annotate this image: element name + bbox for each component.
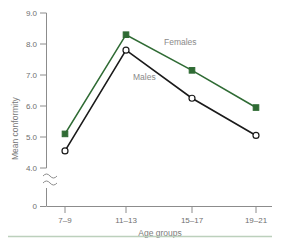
y-axis-tick-labels: 9.0 8.0 7.0 6.0 5.0 4.0 0: [26, 9, 38, 211]
line-chart: 9.0 8.0 7.0 6.0 5.0 4.0 0 Mean conformit…: [0, 0, 282, 245]
data-point: [62, 148, 68, 154]
x-axis-tick-labels: 7–9 11–13 15–17 19–21: [58, 216, 267, 225]
y-tick-label-0: 0: [33, 202, 38, 211]
axis-break-symbol: [43, 174, 57, 185]
y-tick-label-8: 8.0: [26, 40, 38, 49]
x-tick-label-3: 19–21: [245, 216, 268, 225]
x-tick-label-1: 11–13: [115, 216, 137, 225]
y-tick-label-5: 5.0: [26, 133, 38, 142]
chart-container: 9.0 8.0 7.0 6.0 5.0 4.0 0 Mean conformit…: [0, 0, 282, 245]
y-tick-label-7: 7.0: [26, 71, 38, 80]
data-point: [123, 47, 129, 53]
x-tick-label-0: 7–9: [58, 216, 72, 225]
series-markers-males: [62, 47, 259, 154]
data-point: [123, 32, 129, 38]
y-tick-label-9: 9.0: [26, 9, 38, 18]
y-axis-ticks: [40, 13, 47, 207]
y-tick-label-6: 6.0: [26, 102, 38, 111]
series-annotation-females: Females: [164, 37, 197, 47]
data-point: [253, 105, 259, 111]
series-annotation-males: Males: [133, 72, 156, 82]
series-markers-females: [62, 32, 259, 137]
x-tick-label-2: 15–17: [181, 216, 204, 225]
y-axis-title: Mean conformity: [10, 96, 20, 160]
y-tick-label-4: 4.0: [26, 164, 38, 173]
x-axis-ticks: [65, 207, 256, 214]
data-point: [253, 132, 259, 138]
data-point: [62, 131, 68, 137]
data-point: [189, 68, 195, 74]
series-line-males: [65, 50, 256, 151]
data-point: [189, 95, 195, 101]
